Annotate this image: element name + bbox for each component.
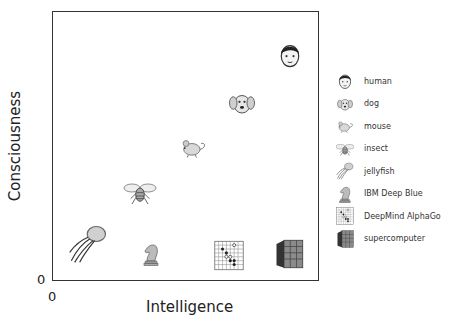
human-face-icon	[276, 40, 304, 70]
legend-item-deepmind-alphago: DeepMind AlphaGo	[336, 205, 456, 228]
legend-item-supercomputer: supercomputer	[336, 228, 456, 251]
human-face-icon	[336, 72, 354, 90]
legend-item-mouse: mouse	[336, 115, 456, 138]
legend: human dog mouse insect jellyfish IBM Dee…	[336, 70, 456, 250]
y-axis-label: Consciousness	[6, 86, 26, 206]
go-board-icon	[213, 240, 245, 271]
mouse-icon	[176, 133, 210, 161]
y-axis-zero-tick: 0	[37, 272, 45, 287]
jellyfish-icon	[336, 162, 354, 180]
legend-item-dog: dog	[336, 93, 456, 116]
x-axis-label: Intelligence	[146, 298, 233, 316]
go-board-icon	[336, 207, 354, 225]
chess-knight-icon	[139, 236, 163, 272]
jellyfish-icon	[68, 222, 108, 266]
chess-knight-icon	[336, 185, 354, 203]
dog-icon	[336, 95, 354, 113]
dog-icon	[225, 88, 259, 118]
supercomputer-icon	[336, 230, 354, 248]
legend-item-human: human	[336, 70, 456, 93]
insect-icon	[336, 140, 354, 158]
legend-item-ibm-deep-blue: IBM Deep Blue	[336, 183, 456, 206]
legend-item-insect: insect	[336, 138, 456, 161]
mouse-icon	[336, 117, 354, 135]
legend-item-jellyfish: jellyfish	[336, 160, 456, 183]
insect-icon	[122, 176, 158, 208]
supercomputer-icon	[274, 236, 304, 272]
x-axis-zero-tick: 0	[48, 289, 56, 304]
